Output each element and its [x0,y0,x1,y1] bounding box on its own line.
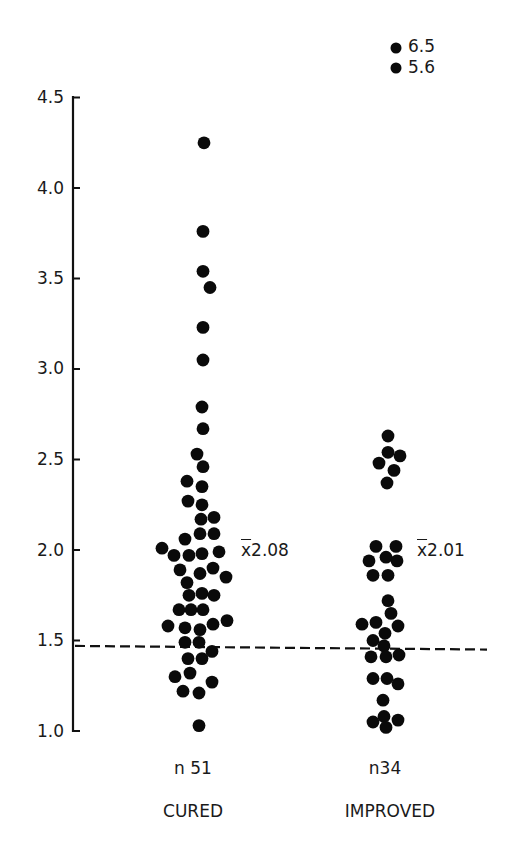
data-dot [193,719,206,732]
outlier-label-low: 5.6 [408,59,435,76]
dot-plot [0,0,514,844]
cured-category-label: CURED [113,803,273,820]
data-dot [208,511,221,524]
data-dot [373,457,386,470]
data-dot [198,136,211,149]
data-dot [197,354,210,367]
data-dot [393,649,406,662]
outlier-label-high: 6.5 [408,38,435,55]
data-dot [196,480,209,493]
data-dot [381,477,394,490]
data-dot [194,567,207,580]
improved-mean-value: 2.01 [427,540,465,560]
data-dot [382,594,395,607]
data-dot [193,636,206,649]
data-dot [196,587,209,600]
data-dot [191,448,204,461]
data-dot [177,685,190,698]
cured-n-label: n 51 [113,760,273,777]
data-dot [168,549,181,562]
data-dot [392,620,405,633]
mean-symbol: x [241,540,251,560]
ytick-label-2-5: 2.5 [8,451,64,468]
data-dot [162,620,175,633]
data-dot [197,460,210,473]
ytick-label-4-0: 4.0 [8,180,64,197]
cured-mean-label: x2.08 [241,542,289,559]
data-dot [365,650,378,663]
data-dot [193,687,206,700]
data-dot [392,678,405,691]
data-dot [394,450,407,463]
data-dot [382,446,395,459]
data-dot [220,571,233,584]
data-dot [378,710,391,723]
improved-n-label: n34 [305,760,465,777]
data-dot [156,542,169,555]
data-dot [208,527,221,540]
data-dot [197,225,210,238]
cured-mean-value: 2.08 [251,540,289,560]
ytick-label-1-5: 1.5 [8,632,64,649]
data-dot [179,533,192,546]
data-dot [196,401,209,414]
data-dot [197,265,210,278]
data-dot [370,616,383,629]
y-axis [73,96,80,732]
data-dot [194,623,207,636]
data-dot [363,555,376,568]
improved-category-label: IMPROVED [310,803,470,820]
data-dot [382,569,395,582]
data-dot [356,618,369,631]
data-dot [213,545,226,558]
mean-symbol: x [417,540,427,560]
data-dot [183,549,196,562]
ytick-label-3-5: 3.5 [8,270,64,287]
data-dot [385,607,398,620]
data-dot [184,667,197,680]
data-dot [207,562,220,575]
data-dot [367,634,380,647]
improved-mean-label: x2.01 [417,542,465,559]
data-dot [197,603,210,616]
data-dot [169,670,182,683]
data-dot [206,645,219,658]
data-dot [367,672,380,685]
data-dot [390,540,403,553]
data-dot [208,589,221,602]
data-dot [181,475,194,488]
data-dot [174,564,187,577]
data-dot [392,714,405,727]
data-dot [182,495,195,508]
reference-line [75,646,487,650]
data-dot [379,627,392,640]
data-dot [391,555,404,568]
data-dot [370,540,383,553]
data-dot [380,650,393,663]
data-dot [197,321,210,334]
ytick-label-3-0: 3.0 [8,360,64,377]
ytick-label-4-5: 4.5 [8,89,64,106]
data-dot [185,603,198,616]
outlier-dots [391,43,402,74]
outlier-dot-6-5 [391,43,402,54]
cured-dots [156,136,234,732]
data-dot [388,464,401,477]
improved-dots [356,430,407,734]
data-dot [382,430,395,443]
data-dot [194,527,207,540]
data-dot [378,640,391,653]
data-dot [367,569,380,582]
data-dot [207,618,220,631]
data-dot [196,498,209,511]
data-dot [367,716,380,729]
data-dot [179,621,192,634]
ytick-label-2-0: 2.0 [8,542,64,559]
data-dot [173,603,186,616]
data-dot [380,551,393,564]
data-dot [182,652,195,665]
data-dot [179,636,192,649]
data-dot [221,614,234,627]
ytick-label-1-0: 1.0 [8,723,64,740]
data-dot [377,694,390,707]
